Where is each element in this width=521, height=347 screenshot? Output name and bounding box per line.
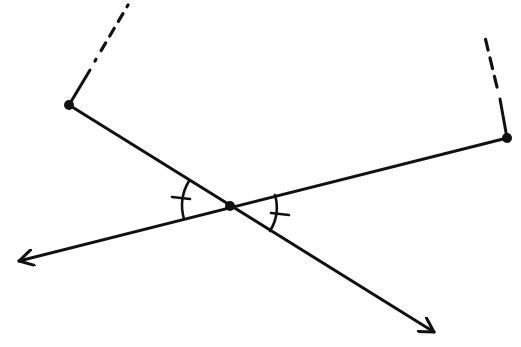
vertical-angles-diagram: [0, 0, 521, 347]
right-vertex-upper-dashed-segment: [484, 33, 497, 87]
line-right-vertex-to-left-arrow: [19, 138, 507, 261]
line-left-vertex-to-bottom-right-arrow: [69, 105, 434, 332]
left-vertex-upper-dashed-segment: [95, 5, 128, 61]
left-angle-tick: [172, 197, 190, 199]
left-vertex-upper-solid-segment: [69, 70, 90, 105]
left-vertex-point: [64, 100, 74, 110]
right-vertex-upper-solid-segment: [500, 99, 507, 138]
right-vertex-point: [502, 133, 512, 143]
diagram-svg: [0, 0, 521, 347]
center-intersection-point: [225, 201, 235, 211]
right-angle-tick: [271, 213, 289, 215]
